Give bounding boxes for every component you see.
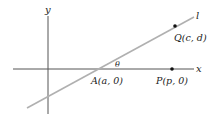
y-axis-label: y: [44, 4, 51, 15]
line-l: [27, 17, 194, 108]
point-p: [170, 67, 174, 71]
angle-theta-label: θ: [115, 60, 120, 69]
point-p-label: P(p, 0): [155, 75, 188, 86]
coordinate-diagram: y x l θ A(a, 0) P(p, 0) Q(c, d): [0, 0, 213, 115]
point-a-label: A(a, 0): [90, 75, 123, 86]
x-axis-label: x: [196, 63, 202, 74]
point-q: [173, 24, 177, 28]
line-l-label: l: [196, 10, 199, 21]
point-q-label: Q(c, d): [174, 32, 207, 43]
